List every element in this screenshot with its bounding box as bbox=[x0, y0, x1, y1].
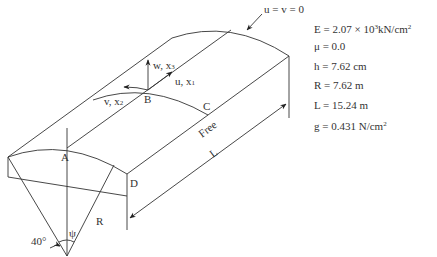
param-self-weight: g = 0.431 N/cm2 bbox=[314, 117, 411, 136]
point-a-label: A bbox=[61, 152, 69, 163]
param-poisson-ratio: μ = 0.0 bbox=[314, 39, 411, 58]
w-axis-label: w, x3 bbox=[153, 60, 175, 73]
point-c-label: C bbox=[203, 101, 210, 112]
psi-label: ψ bbox=[69, 228, 76, 239]
psi-arc bbox=[59, 240, 74, 242]
param-thickness: h = 7.62 cm bbox=[314, 59, 411, 78]
boundary-condition-label: u = v = 0 bbox=[264, 4, 304, 15]
boundary-arrow bbox=[247, 14, 262, 30]
param-radius: R = 7.62 m bbox=[314, 78, 411, 97]
v-axis-label: v, x2 bbox=[104, 96, 123, 109]
radius-label: R bbox=[96, 216, 103, 227]
u-axis-label: u, x1 bbox=[175, 76, 195, 89]
angle-40-label: 40° bbox=[31, 236, 46, 247]
angle-40-arc bbox=[50, 245, 60, 248]
right-edge bbox=[127, 56, 289, 174]
param-elastic-modulus: E = 2.07 × 103kN/cm2 bbox=[314, 20, 411, 39]
point-b-label: B bbox=[144, 94, 151, 105]
point-d-label: D bbox=[130, 178, 138, 189]
parameter-list: E = 2.07 × 103kN/cm2 μ = 0.0 h = 7.62 cm… bbox=[314, 20, 411, 136]
back-arc bbox=[172, 31, 289, 56]
radius-right bbox=[67, 165, 114, 256]
u-axis-arrow bbox=[148, 72, 172, 90]
v-axis-arrow bbox=[124, 87, 148, 90]
param-length: L = 15.24 m bbox=[314, 98, 411, 117]
